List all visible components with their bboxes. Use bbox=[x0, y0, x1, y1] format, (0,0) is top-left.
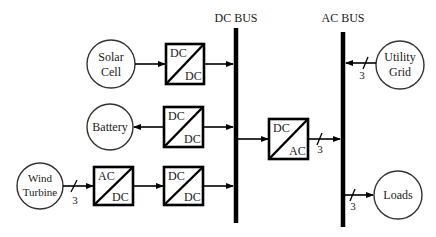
wind-dcdc-converter: DC DC bbox=[164, 167, 203, 205]
svg-text:Utility: Utility bbox=[384, 50, 415, 64]
ac-bus-label: AC BUS bbox=[321, 11, 364, 25]
wind-acdc-rectifier: AC DC bbox=[94, 167, 133, 205]
svg-text:Grid: Grid bbox=[389, 65, 411, 79]
solar-dcdc-converter: DC DC bbox=[166, 44, 204, 84]
battery-dcdc-converter: DC DC bbox=[164, 107, 203, 147]
svg-text:DC: DC bbox=[184, 190, 201, 204]
solar-cell-node: Solar Cell bbox=[87, 40, 135, 88]
dc-bus-label: DC BUS bbox=[214, 11, 257, 25]
inverter-phase-count: 3 bbox=[317, 143, 323, 155]
svg-text:Wind: Wind bbox=[28, 172, 52, 184]
utility-grid-node: Utility Grid bbox=[376, 41, 424, 89]
wind-phase-count: 3 bbox=[72, 194, 78, 206]
svg-text:Loads: Loads bbox=[383, 188, 413, 202]
svg-text:DC: DC bbox=[112, 190, 129, 204]
svg-text:AC: AC bbox=[98, 169, 115, 183]
svg-text:Battery: Battery bbox=[92, 120, 127, 134]
svg-text:DC: DC bbox=[185, 69, 202, 83]
wind-turbine-node: Wind Turbine bbox=[17, 163, 63, 209]
svg-text:DC: DC bbox=[273, 121, 290, 135]
svg-text:DC: DC bbox=[184, 132, 201, 146]
loads-node: Loads bbox=[374, 171, 422, 219]
svg-text:Turbine: Turbine bbox=[23, 186, 58, 198]
svg-text:AC: AC bbox=[289, 144, 306, 158]
microgrid-diagram: DC BUS AC BUS Solar Cell DC DC Battery D… bbox=[0, 0, 436, 237]
svg-text:DC: DC bbox=[170, 46, 187, 60]
battery-node: Battery bbox=[87, 104, 133, 150]
dcac-inverter: DC AC bbox=[269, 119, 308, 159]
loads-phase-count: 3 bbox=[350, 200, 356, 212]
svg-text:DC: DC bbox=[168, 169, 185, 183]
svg-text:DC: DC bbox=[168, 109, 185, 123]
svg-text:Cell: Cell bbox=[101, 65, 122, 79]
utility-phase-count: 3 bbox=[359, 69, 365, 81]
svg-text:Solar: Solar bbox=[98, 50, 123, 64]
